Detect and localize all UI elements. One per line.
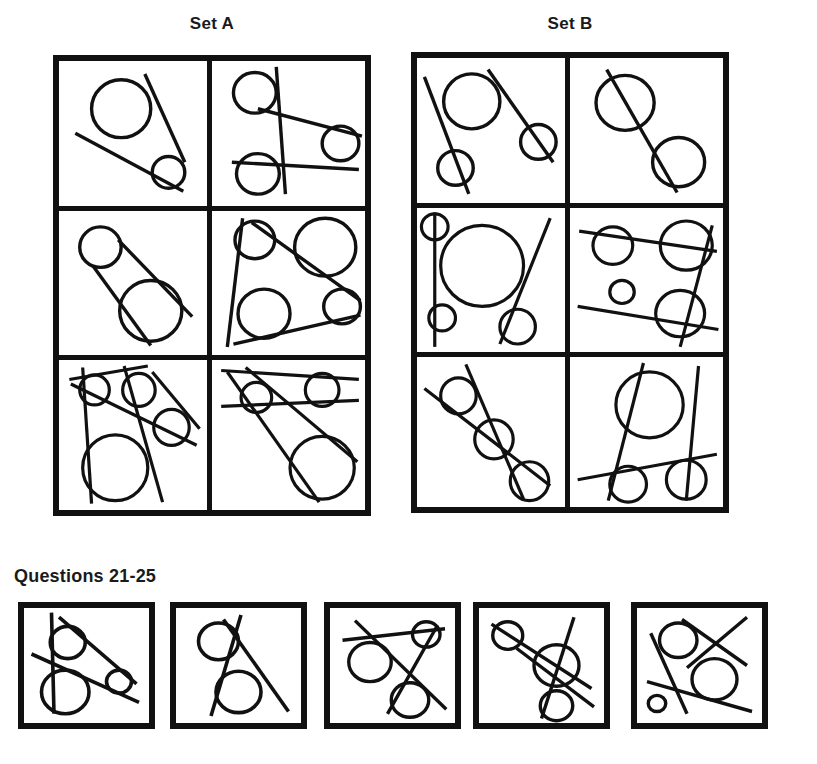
circle-shape: [80, 227, 121, 268]
circle-shape: [475, 420, 513, 459]
line-shape: [232, 162, 359, 169]
figure-a1: [59, 61, 207, 206]
circle-shape: [429, 305, 456, 331]
figure-b4: [570, 208, 723, 353]
figure-a4: [212, 211, 365, 356]
set-b-cell-5[interactable]: [417, 357, 570, 507]
set-b-cell-2[interactable]: [570, 58, 723, 208]
figure-q22: [176, 608, 301, 723]
figure-b6: [570, 357, 723, 507]
circle-shape: [441, 225, 524, 306]
circle-shape: [648, 695, 666, 711]
line-shape: [424, 77, 468, 194]
line-shape: [578, 306, 719, 329]
set-a-cell-3[interactable]: [59, 211, 212, 361]
set-a-title: Set A: [53, 14, 371, 34]
figure-q24: [479, 608, 604, 723]
figure-b2: [570, 58, 723, 203]
figure-b3: [417, 208, 565, 353]
figure-q23: [330, 608, 455, 723]
circle-shape: [233, 73, 276, 114]
question-row: [18, 602, 800, 730]
circle-shape: [444, 74, 500, 129]
question-box-22[interactable]: [170, 602, 307, 729]
line-shape: [71, 384, 197, 445]
figure-q25: [637, 608, 762, 723]
figure-a6: [212, 360, 365, 510]
circle-shape: [92, 80, 151, 138]
circle-shape: [42, 670, 90, 714]
circle-shape: [295, 218, 356, 276]
circle-shape: [123, 374, 156, 407]
circle-shape: [83, 435, 148, 501]
set-a-cell-4[interactable]: [212, 211, 365, 361]
circle-shape: [692, 659, 737, 700]
line-shape: [75, 133, 183, 191]
circle-shape: [120, 280, 182, 341]
question-box-25[interactable]: [631, 602, 768, 729]
line-shape: [578, 455, 717, 480]
line-shape: [224, 620, 289, 712]
question-box-21[interactable]: [18, 602, 155, 729]
questions-heading: Questions 21-25: [14, 566, 156, 587]
set-b-grid: [411, 52, 729, 513]
circle-shape: [441, 378, 477, 414]
circle-shape: [50, 626, 85, 658]
circle-shape: [660, 623, 698, 658]
line-shape: [221, 371, 359, 380]
set-a-cell-5[interactable]: [59, 360, 212, 510]
figure-b1: [417, 58, 565, 203]
line-shape: [651, 633, 687, 714]
circle-shape: [349, 643, 392, 682]
line-shape: [93, 266, 151, 346]
question-box-23[interactable]: [324, 602, 461, 729]
circle-shape: [656, 290, 705, 336]
set-a-cell-2[interactable]: [212, 61, 365, 211]
circle-shape: [610, 280, 634, 303]
circle-shape: [616, 372, 683, 438]
set-a-cell-6[interactable]: [212, 360, 365, 510]
set-b-cell-6[interactable]: [570, 357, 723, 507]
line-shape: [500, 218, 550, 344]
figure-b5: [417, 357, 565, 507]
question-box-24[interactable]: [473, 602, 610, 729]
line-shape: [542, 617, 575, 718]
circle-shape: [107, 670, 132, 693]
line-shape: [152, 372, 199, 429]
circle-shape: [290, 437, 354, 500]
set-a-cell-1[interactable]: [59, 61, 212, 211]
circle-shape: [593, 226, 633, 264]
set-b-cell-3[interactable]: [417, 208, 570, 358]
set-b-cell-4[interactable]: [570, 208, 723, 358]
line-shape: [246, 368, 358, 462]
circle-shape: [216, 671, 261, 712]
figure-a3: [59, 211, 207, 356]
set-b-cell-1[interactable]: [417, 58, 570, 208]
line-shape: [233, 315, 360, 344]
circle-shape: [236, 154, 279, 195]
line-shape: [258, 109, 362, 136]
set-a-grid: [53, 55, 371, 516]
figure-q21: [24, 608, 149, 723]
figure-a5: [59, 360, 207, 510]
line-shape: [686, 366, 698, 501]
figure-a2: [212, 61, 365, 206]
test-page: Set A Set B Questions 21-25: [0, 0, 817, 764]
line-shape: [579, 231, 717, 251]
set-b-title: Set B: [411, 14, 729, 34]
circle-shape: [238, 289, 290, 338]
